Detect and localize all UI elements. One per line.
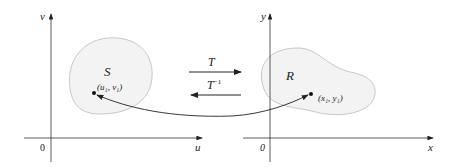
u-axis-label: u bbox=[195, 141, 201, 153]
forward-label: T bbox=[208, 55, 216, 69]
right-xy-plane: y x 0 R (x₁, y₁) bbox=[243, 10, 433, 162]
right-origin-label: 0 bbox=[260, 142, 265, 153]
x-axis-label: x bbox=[427, 141, 433, 153]
point-xy bbox=[309, 92, 313, 96]
region-r-label: R bbox=[285, 68, 294, 83]
region-s-label: S bbox=[104, 64, 111, 79]
region-s bbox=[69, 38, 152, 114]
transformation-diagram: v u 0 S (u₁, v₁) T T−1 y x 0 R (x₁, y₁) bbox=[0, 0, 455, 167]
region-r bbox=[261, 48, 375, 115]
point-xy-label: (x₁, y₁) bbox=[318, 93, 343, 103]
v-axis-label: v bbox=[40, 10, 45, 22]
y-axis-label: y bbox=[260, 10, 266, 22]
transform-arrows: T T−1 bbox=[189, 55, 241, 95]
point-uv bbox=[92, 91, 96, 95]
inverse-label: T−1 bbox=[207, 78, 222, 92]
left-origin-label: 0 bbox=[40, 142, 45, 153]
left-uv-plane: v u 0 S (u₁, v₁) bbox=[24, 10, 202, 162]
point-uv-label: (u₁, v₁) bbox=[97, 82, 122, 92]
